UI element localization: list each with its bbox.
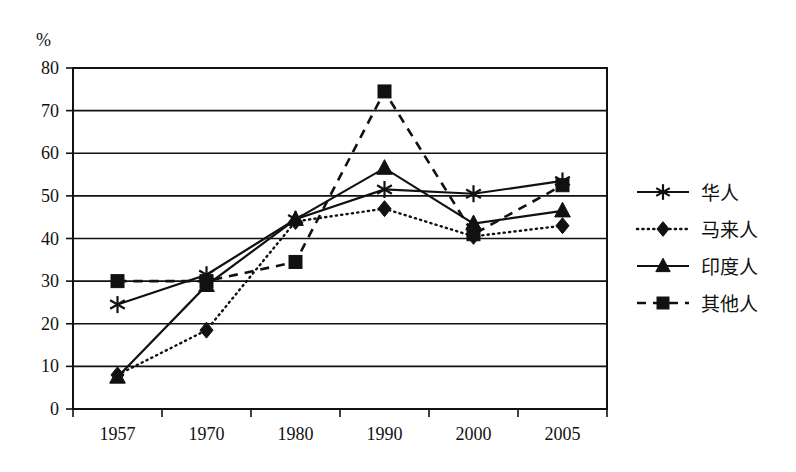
triangle-marker: [377, 160, 393, 175]
x-tick-label-2005: 2005: [545, 424, 581, 444]
triangle-marker: [555, 202, 571, 217]
diamond-marker: [378, 201, 391, 217]
marker-square: [556, 179, 569, 192]
chart-figure: 01020304050607080%1957197019801990200020…: [0, 0, 796, 472]
y-tick-label-30: 30: [41, 271, 59, 291]
x-tick-label-1980: 1980: [278, 424, 314, 444]
x-tick-label-1957: 1957: [100, 424, 136, 444]
legend-label-1: 马来人: [701, 219, 758, 241]
square-marker: [378, 85, 391, 98]
marker-square: [200, 275, 213, 288]
marker-triangle: [555, 202, 571, 217]
series-3: [111, 85, 569, 288]
y-tick-label-0: 0: [50, 399, 59, 419]
legend-label-3: 其他人: [701, 293, 758, 315]
diamond-marker: [657, 222, 669, 237]
series-group: [110, 85, 571, 383]
square-marker: [289, 255, 302, 268]
series-line: [118, 181, 563, 305]
line-chart: 01020304050607080%1957197019801990200020…: [0, 0, 796, 472]
x-axis-group: 195719701980199020002005: [73, 409, 607, 444]
marker-square: [289, 255, 302, 268]
y-tick-label-40: 40: [41, 229, 59, 249]
x-tick-label-1990: 1990: [367, 424, 403, 444]
marker-diamond: [657, 222, 669, 237]
series-1: [111, 201, 569, 383]
square-marker: [467, 228, 480, 241]
legend-label-0: 华人: [701, 182, 739, 204]
legend-item-2[interactable]: 印度人: [637, 256, 758, 278]
series-2: [110, 160, 571, 383]
square-marker: [556, 179, 569, 192]
legend-item-1[interactable]: 马来人: [637, 219, 758, 241]
marker-triangle: [377, 160, 393, 175]
y-tick-label-20: 20: [41, 314, 59, 334]
marker-square: [111, 275, 124, 288]
legend-label-2: 印度人: [701, 256, 758, 278]
grid-group: 01020304050607080: [41, 58, 607, 419]
legend: 华人马来人印度人其他人: [637, 182, 758, 315]
marker-diamond: [556, 218, 569, 234]
marker-square: [657, 297, 669, 309]
series-line: [118, 209, 563, 375]
y-tick-label-50: 50: [41, 186, 59, 206]
series-line: [118, 168, 563, 377]
square-marker: [111, 275, 124, 288]
legend-item-3[interactable]: 其他人: [637, 293, 758, 315]
x-tick-label-2000: 2000: [456, 424, 492, 444]
y-tick-label-70: 70: [41, 101, 59, 121]
diamond-marker: [556, 218, 569, 234]
square-marker: [657, 297, 669, 309]
y-axis-unit-label: %: [36, 30, 51, 50]
marker-asterisk: [110, 296, 125, 313]
marker-diamond: [378, 201, 391, 217]
y-tick-label-80: 80: [41, 58, 59, 78]
square-marker: [200, 275, 213, 288]
y-tick-label-60: 60: [41, 143, 59, 163]
legend-item-0[interactable]: 华人: [637, 182, 739, 204]
y-tick-label-10: 10: [41, 356, 59, 376]
x-tick-label-1970: 1970: [189, 424, 225, 444]
series-line: [118, 91, 563, 281]
marker-square: [378, 85, 391, 98]
marker-square: [467, 228, 480, 241]
